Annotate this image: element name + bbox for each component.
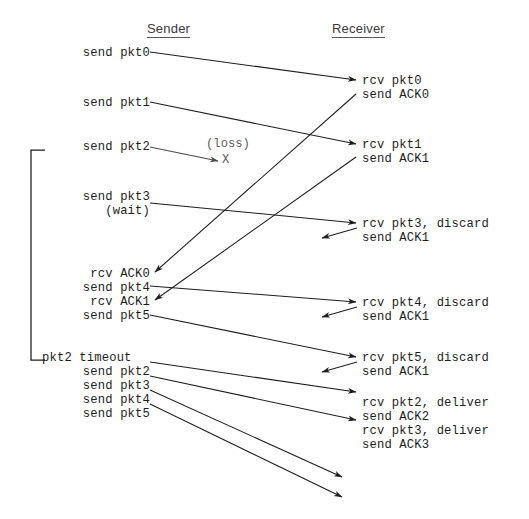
receiver-event-rcv-pkt2-deliver: rcv pkt2, deliver	[362, 396, 489, 410]
arrow-pkt0-transit	[150, 52, 356, 80]
sender-event-send-pkt4: send pkt4	[83, 281, 150, 295]
sender-event-rcv-ack1: rcv ACK1	[90, 295, 150, 309]
receiver-event-send-ack3: send ACK3	[362, 438, 429, 452]
receiver-event-send-ack0: send ACK0	[362, 88, 429, 102]
receiver-event-send-ack1-b: send ACK1	[362, 231, 429, 245]
receiver-event-send-ack1-a: send ACK1	[362, 152, 429, 166]
arrow-repkt5-transit	[150, 404, 342, 497]
receiver-event-rcv-pkt1: rcv pkt1	[362, 138, 422, 152]
receiver-event-rcv-pkt4-discard: rcv pkt4, discard	[362, 296, 489, 310]
arrow-pkt4-transit	[150, 286, 356, 302]
receiver-event-rcv-pkt0: rcv pkt0	[362, 74, 422, 88]
sender-event-rcv-ack0: rcv ACK0	[90, 267, 150, 281]
sender-event-resend-pkt3: send pkt3	[83, 379, 150, 393]
sender-event-wait: (wait)	[105, 204, 150, 218]
arrow-pkt5-transit	[150, 315, 356, 357]
sender-column-header: Sender	[147, 21, 190, 38]
receiver-event-rcv-pkt3-discard: rcv pkt3, discard	[362, 217, 489, 231]
loss-label: (loss)	[206, 137, 250, 151]
receiver-column-header: Receiver	[332, 21, 385, 38]
sender-event-send-pkt1: send pkt1	[83, 96, 150, 110]
arrow-ack0-transit	[155, 94, 356, 272]
arrow-repkt2-transit	[150, 362, 356, 392]
arrow-repkt4-transit	[150, 390, 342, 477]
sender-event-resend-pkt2: send pkt2	[83, 365, 150, 379]
timeout-label: pkt2 timeout	[42, 351, 132, 365]
sender-event-send-pkt3: send pkt3	[83, 190, 150, 204]
receiver-event-rcv-pkt5-discard: rcv pkt5, discard	[362, 351, 489, 365]
arrow-ack1-c	[322, 307, 357, 317]
arrow-ack1-transit	[155, 157, 356, 300]
loss-marker-x: X	[222, 153, 229, 167]
sender-event-resend-pkt4: send pkt4	[83, 393, 150, 407]
rdt-protocol-diagram: Sender Receiver (loss) X pkt2 timeout se…	[0, 0, 529, 519]
arrow-pkt3-transit	[150, 203, 356, 223]
arrow-repkt3-transit	[150, 376, 356, 420]
sender-event-send-pkt5: send pkt5	[83, 309, 150, 323]
arrow-group	[150, 52, 357, 497]
receiver-event-send-ack1-d: send ACK1	[362, 365, 429, 379]
receiver-event-send-ack1-c: send ACK1	[362, 310, 429, 324]
sender-event-resend-pkt5: send pkt5	[83, 407, 150, 421]
diagram-vector-layer	[0, 0, 529, 519]
sender-event-send-pkt2: send pkt2	[83, 140, 150, 154]
receiver-event-rcv-pkt3-deliver: rcv pkt3, deliver	[362, 424, 489, 438]
receiver-event-send-ack2: send ACK2	[362, 410, 429, 424]
timeout-bracket	[31, 150, 45, 360]
arrow-ack1-d	[322, 362, 357, 372]
sender-event-send-pkt0: send pkt0	[83, 46, 150, 60]
arrow-ack1-b	[322, 228, 357, 238]
arrow-pkt1-transit	[150, 102, 356, 144]
